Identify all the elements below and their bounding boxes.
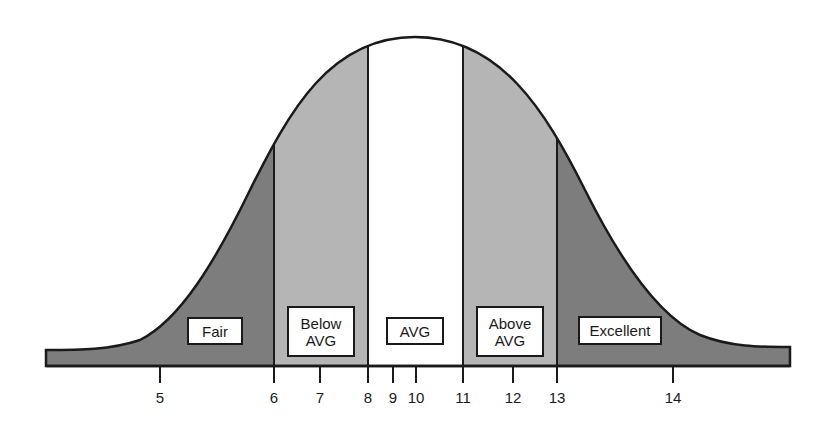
tick-label-6: 6 xyxy=(270,389,278,406)
zone-label-excellent: Excellent xyxy=(578,316,662,345)
tick-label-10: 10 xyxy=(408,389,425,406)
zone-label-avg: AVG xyxy=(386,317,444,345)
tick-label-8: 8 xyxy=(364,389,372,406)
bell-curve-diagram xyxy=(0,0,832,433)
zone-label-fair: Fair xyxy=(187,317,243,345)
tick-label-12: 12 xyxy=(505,389,522,406)
tick-label-14: 14 xyxy=(665,389,682,406)
tick-label-9: 9 xyxy=(389,389,397,406)
tick-label-5: 5 xyxy=(156,389,164,406)
tick-label-11: 11 xyxy=(455,389,471,406)
tick-label-7: 7 xyxy=(316,389,324,406)
zone-label-above-avg: Above AVG xyxy=(476,306,544,357)
zone-label-below-avg: Below AVG xyxy=(287,306,355,357)
axis-ticks xyxy=(160,366,673,383)
tick-label-13: 13 xyxy=(549,389,566,406)
